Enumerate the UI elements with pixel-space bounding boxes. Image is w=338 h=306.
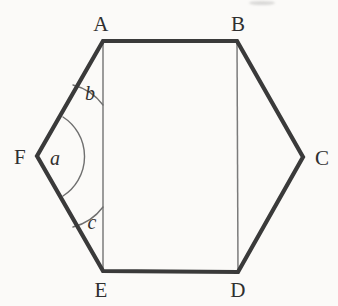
vertex-label-d: D	[230, 280, 245, 301]
vertex-label-a: A	[93, 14, 108, 35]
angle-arc-a	[63, 117, 85, 196]
vertex-label-f: F	[14, 147, 26, 168]
top-edge-smudge	[249, 1, 275, 5]
vertex-label-c: C	[315, 148, 329, 169]
angle-label-c: c	[88, 212, 97, 232]
hexagon-outline	[37, 41, 303, 272]
angle-label-b: b	[85, 83, 95, 103]
vertex-label-b: B	[231, 14, 245, 35]
segment-bd-line	[237, 41, 238, 272]
angle-label-a: a	[50, 148, 60, 168]
vertex-label-e: E	[94, 280, 107, 301]
geometry-figure: A B C D E F a b c	[0, 0, 338, 306]
